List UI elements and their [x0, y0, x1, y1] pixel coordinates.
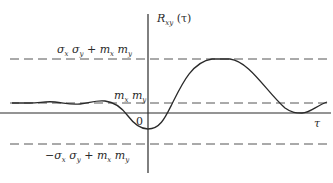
- y-axis-label-arg: (τ): [177, 12, 192, 25]
- y-axis-label: Rxy (τ): [157, 13, 191, 27]
- tau-axis-label: τ: [314, 118, 320, 129]
- upper-bound-label: σx σy + mx my: [57, 44, 132, 58]
- mean-product-label: mx my: [114, 90, 146, 104]
- origin-label: 0: [136, 116, 143, 127]
- lower-bound-label: −σx σy + mx my: [45, 150, 129, 164]
- correlation-curve: [12, 59, 327, 129]
- y-axis-label-sub: xy: [165, 19, 173, 27]
